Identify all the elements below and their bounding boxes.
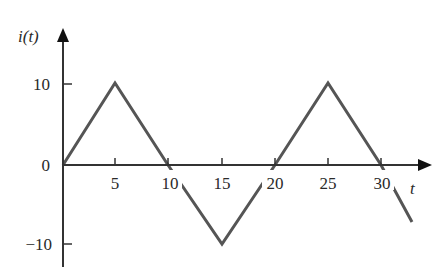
y-tick-label-neg10: −10 — [25, 235, 52, 254]
y-tick-label-10: 10 — [33, 75, 50, 94]
x-axis-arrow-icon — [418, 159, 432, 171]
x-tick-label-15: 15 — [214, 174, 231, 193]
y-axis-label: i(t) — [18, 27, 39, 46]
x-tick-label-20: 20 — [267, 174, 284, 193]
y-tick-label-0: 0 — [42, 156, 51, 175]
x-tick-label-25: 25 — [320, 174, 337, 193]
y-axis-arrow-icon — [57, 28, 69, 42]
x-tick-label-5: 5 — [111, 174, 120, 193]
x-tick-label-30: 30 — [374, 174, 391, 193]
chart-canvas: i(t) t 10 0 −10 5 10 15 20 25 30 — [0, 0, 442, 276]
x-tick-label-10: 10 — [162, 174, 179, 193]
x-axis-label: t — [410, 179, 416, 198]
